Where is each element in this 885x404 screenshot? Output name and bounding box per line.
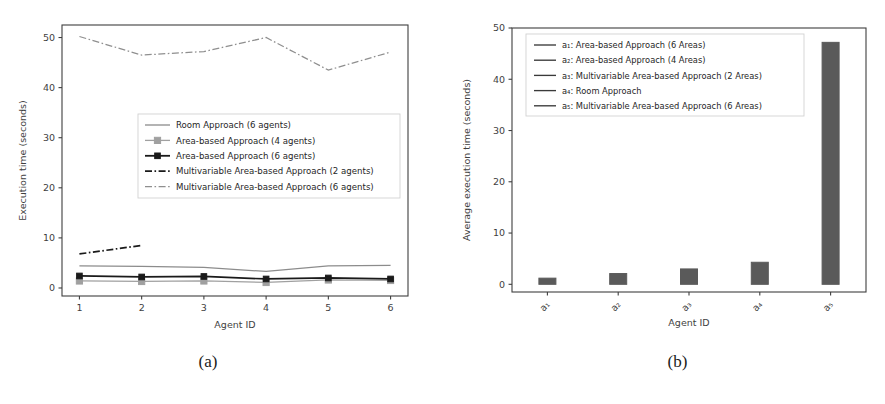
bar-a1: [539, 278, 556, 284]
legend-label-1: a₁: Area-based Approach (6 Areas): [562, 40, 705, 50]
x-axis-title: Agent ID: [214, 319, 255, 330]
y-tick-label: 0: [499, 279, 505, 290]
x-tick-label: a₁: [537, 299, 552, 314]
x-tick-label: a₂: [608, 299, 623, 314]
y-tick-label: 0: [49, 282, 55, 293]
y-tick-label: 20: [43, 182, 55, 193]
subfigure-a: 01020304050123456Agent IDExecution time …: [0, 0, 440, 404]
y-tick-label: 30: [43, 132, 55, 143]
subfigure-b: 01020304050a₁a₂a₃a₄a₅Agent IDAverage exe…: [440, 0, 885, 404]
x-axis-title: Agent ID: [668, 317, 709, 328]
legend-label-5: a₅: Multivariable Area-based Approach (6…: [562, 101, 762, 111]
legend-label-3: a₃: Multivariable Area-based Approach (2…: [562, 71, 762, 81]
legend-label-4: Multivariable Area-based Approach (2 age…: [176, 166, 374, 176]
bar-a3: [681, 269, 698, 284]
y-tick-label: 50: [43, 32, 55, 43]
y-tick-label: 40: [493, 74, 505, 85]
legend-marker-2: [154, 137, 160, 143]
x-tick-label: 1: [76, 302, 82, 313]
series-marker: [139, 274, 145, 280]
legend-label-4: a₄: Room Approach: [562, 86, 642, 96]
series-line-3: [79, 276, 390, 279]
x-tick-label: a₄: [750, 299, 765, 314]
y-axis-title: Average execution time (seconds): [461, 79, 472, 241]
legend-label-3: Area-based Approach (6 agents): [176, 151, 315, 161]
legend-label-1: Room Approach (6 agents): [176, 120, 291, 130]
y-tick-label: 10: [493, 227, 505, 238]
caption-a: (a): [0, 352, 428, 372]
x-tick-label: 2: [139, 302, 145, 313]
series-line-5: [79, 37, 390, 71]
line-chart: 01020304050123456Agent IDExecution time …: [0, 0, 440, 340]
caption-b: (b): [455, 352, 885, 372]
y-tick-label: 20: [493, 176, 505, 187]
series-marker: [263, 276, 269, 282]
x-tick-label: a₃: [679, 299, 694, 314]
x-tick-label: 5: [325, 302, 331, 313]
x-tick-label: 6: [388, 302, 394, 313]
bar-a2: [610, 274, 627, 285]
y-tick-label: 10: [43, 232, 55, 243]
x-tick-label: 4: [263, 302, 269, 313]
series-line-4: [79, 245, 141, 254]
x-tick-label: 3: [201, 302, 207, 313]
y-tick-label: 40: [43, 82, 55, 93]
bar-chart: 01020304050a₁a₂a₃a₄a₅Agent IDAverage exe…: [440, 0, 885, 340]
y-tick-label: 30: [493, 125, 505, 136]
figure-container: 01020304050123456Agent IDExecution time …: [0, 0, 885, 404]
y-axis-title: Execution time (seconds): [17, 100, 28, 220]
legend-label-2: Area-based Approach (4 agents): [176, 136, 315, 146]
series-marker: [77, 273, 83, 279]
legend-marker-3: [155, 153, 161, 159]
y-tick-label: 50: [493, 22, 505, 33]
series-line-1: [79, 265, 390, 271]
x-tick-label: a₅: [820, 299, 835, 314]
series-marker: [388, 276, 394, 282]
series-line-2: [79, 280, 390, 283]
legend-label-5: Multivariable Area-based Approach (6 age…: [176, 182, 374, 192]
legend-label-2: a₂: Area-based Approach (4 Areas): [562, 55, 705, 65]
series-marker: [326, 275, 332, 281]
bar-a5: [822, 42, 839, 284]
bar-a4: [751, 262, 768, 284]
series-marker: [201, 274, 207, 280]
